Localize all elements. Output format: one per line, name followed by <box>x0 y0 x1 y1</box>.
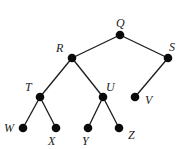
edge-q-r <box>72 35 120 58</box>
edge-r-t <box>40 58 72 97</box>
node-label-t: T <box>25 80 33 94</box>
node-label-v: V <box>145 93 154 107</box>
node-label-x: X <box>47 134 56 148</box>
node-s <box>164 54 173 63</box>
tree-edges <box>23 35 168 128</box>
node-label-r: R <box>55 41 64 55</box>
node-x <box>52 124 61 133</box>
edge-q-s <box>120 35 168 58</box>
edge-r-u <box>72 58 103 97</box>
node-v <box>131 93 140 102</box>
node-label-s: S <box>169 40 175 54</box>
tree-diagram: QRSTUVWXYZ <box>0 0 186 149</box>
node-label-z: Z <box>128 128 135 142</box>
node-r <box>68 54 77 63</box>
node-q <box>116 31 125 40</box>
node-t <box>36 93 45 102</box>
node-label-w: W <box>4 121 15 135</box>
node-z <box>115 124 124 133</box>
tree-nodes <box>19 31 173 133</box>
edge-u-z <box>103 97 119 128</box>
node-y <box>84 124 93 133</box>
edge-u-y <box>88 97 103 128</box>
node-label-q: Q <box>116 16 125 30</box>
node-label-u: U <box>106 80 116 94</box>
edge-s-v <box>135 58 168 97</box>
node-w <box>19 124 28 133</box>
node-label-y: Y <box>82 134 90 148</box>
edge-t-w <box>23 97 40 128</box>
edge-t-x <box>40 97 56 128</box>
